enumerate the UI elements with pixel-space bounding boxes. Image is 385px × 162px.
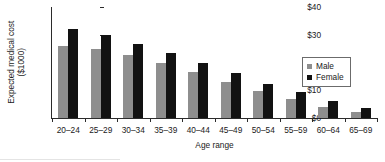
x-tick-mark xyxy=(345,118,346,122)
bar-male xyxy=(91,49,101,118)
bar-group xyxy=(182,7,215,118)
bar-female xyxy=(133,44,143,118)
bar-male xyxy=(318,107,328,118)
bar-male xyxy=(58,46,68,118)
x-axis-title: Age range xyxy=(52,140,377,150)
legend-label: Female xyxy=(316,72,344,83)
x-tick-label: 65–69 xyxy=(349,125,372,135)
bar-female xyxy=(101,35,111,118)
bar-female xyxy=(68,29,78,118)
x-tick-label: 60–64 xyxy=(317,125,340,135)
bar-female xyxy=(263,84,273,118)
x-tick-label: 35–39 xyxy=(154,125,177,135)
legend-swatch-icon xyxy=(307,75,312,80)
legend: MaleFemale xyxy=(302,57,351,87)
x-tick-label: 20–24 xyxy=(57,125,80,135)
x-tick-mark xyxy=(247,118,248,122)
x-tick-mark xyxy=(150,118,151,122)
legend-swatch-icon xyxy=(307,64,312,69)
bar-female xyxy=(166,53,176,118)
bar-male xyxy=(221,82,231,118)
page-edge-artifact xyxy=(0,159,120,160)
legend-label: Male xyxy=(316,61,334,72)
bar-female xyxy=(198,63,208,118)
x-tick-mark xyxy=(215,118,216,122)
x-tick-label: 30–34 xyxy=(122,125,145,135)
x-tick-mark xyxy=(117,118,118,122)
bar-group xyxy=(85,7,118,118)
bar-female xyxy=(296,92,306,118)
bar-female xyxy=(328,101,338,118)
bar-male xyxy=(156,63,166,118)
bar-group xyxy=(247,7,280,118)
bar-group xyxy=(117,7,150,118)
x-tick-label: 25–29 xyxy=(89,125,112,135)
x-tick-mark xyxy=(377,118,378,122)
x-tick-mark xyxy=(52,118,53,122)
bar-male xyxy=(123,55,133,118)
x-tick-mark xyxy=(85,118,86,122)
bar-male xyxy=(286,99,296,118)
x-tick-mark xyxy=(182,118,183,122)
legend-item-female: Female xyxy=(307,72,344,83)
bar-group xyxy=(150,7,183,118)
bar-group xyxy=(52,7,85,118)
x-tick-label: 50–54 xyxy=(252,125,275,135)
x-tick-mark xyxy=(280,118,281,122)
bar-female xyxy=(231,73,241,118)
y-tick-mark xyxy=(100,118,104,119)
bar-group xyxy=(215,7,248,118)
bar-male xyxy=(188,72,198,118)
x-tick-label: 45–49 xyxy=(219,125,242,135)
y-axis-title-line2: ($1000) xyxy=(16,7,26,117)
bar-male xyxy=(351,112,361,118)
bar-chart: Expected medical cost ($1000) $0$10$20$3… xyxy=(0,0,385,162)
x-tick-label: 55–59 xyxy=(284,125,307,135)
x-tick-label: 40–44 xyxy=(187,125,210,135)
bar-male xyxy=(253,91,263,118)
x-tick-mark xyxy=(312,118,313,122)
legend-item-male: Male xyxy=(307,61,344,72)
bar-female xyxy=(361,108,371,118)
y-axis-title-line1: Expected medical cost xyxy=(6,7,16,117)
y-axis-title: Expected medical cost ($1000) xyxy=(0,0,30,126)
